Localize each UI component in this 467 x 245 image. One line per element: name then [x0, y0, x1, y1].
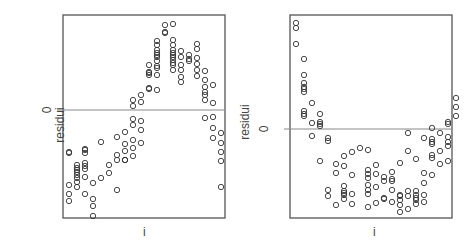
data-point [66, 182, 71, 187]
data-point [210, 82, 215, 87]
data-point [218, 130, 223, 135]
data-point [130, 97, 135, 102]
data-point [333, 170, 338, 175]
data-point [202, 68, 207, 73]
data-point [405, 206, 410, 211]
data-point [98, 175, 103, 180]
data-point [162, 22, 167, 27]
data-point [130, 116, 135, 121]
data-point [154, 72, 159, 77]
data-point [341, 163, 346, 168]
data-point [218, 184, 223, 189]
data-point [309, 120, 314, 125]
data-point [210, 135, 215, 140]
data-point [429, 125, 434, 130]
scatter-plot-left [0, 0, 233, 245]
data-point [341, 153, 346, 158]
data-point [453, 104, 458, 109]
data-point [357, 145, 362, 150]
data-point [397, 160, 402, 165]
data-point [218, 149, 223, 154]
data-point [349, 191, 354, 196]
y-tick-zero-right: 0 [257, 126, 271, 133]
data-point [106, 162, 111, 167]
data-point [301, 56, 306, 61]
data-point [194, 67, 199, 72]
data-point [381, 178, 386, 183]
data-point [349, 149, 354, 154]
data-point [66, 191, 71, 196]
data-point [90, 180, 95, 185]
data-point [325, 187, 330, 192]
data-point [210, 114, 215, 119]
data-point [421, 199, 426, 204]
data-point [301, 72, 306, 77]
data-point [421, 180, 426, 185]
data-point [194, 73, 199, 78]
data-point [130, 145, 135, 150]
data-point [170, 21, 175, 26]
data-point [194, 55, 199, 60]
data-point [90, 203, 95, 208]
data-point [309, 100, 314, 105]
data-point [365, 147, 370, 152]
data-point [130, 137, 135, 142]
data-point [389, 199, 394, 204]
data-point [122, 148, 127, 153]
data-point [202, 77, 207, 82]
data-point [178, 54, 183, 59]
data-point [122, 157, 127, 162]
data-point [114, 134, 119, 139]
data-point [138, 127, 143, 132]
data-point [130, 103, 135, 108]
data-point [98, 139, 103, 144]
data-point [325, 193, 330, 198]
data-point [82, 174, 87, 179]
data-point [122, 129, 127, 134]
data-point [437, 148, 442, 153]
data-point [82, 191, 87, 196]
data-point [373, 171, 378, 176]
data-point [333, 202, 338, 207]
data-point [293, 41, 298, 46]
data-point [365, 175, 370, 180]
data-point [317, 158, 322, 163]
data-point [421, 135, 426, 140]
data-point [218, 158, 223, 163]
data-point [309, 133, 314, 138]
data-point [421, 192, 426, 197]
data-point [445, 158, 450, 163]
data-point [138, 92, 143, 97]
data-point [397, 209, 402, 214]
data-point [373, 184, 378, 189]
data-point [405, 130, 410, 135]
data-point [154, 87, 159, 92]
data-point [317, 111, 322, 116]
y-axis-label-left: residui [53, 107, 67, 142]
x-axis-label-right: i [373, 225, 376, 239]
data-point [437, 161, 442, 166]
left-residual-plot: residui 0 i [0, 0, 233, 245]
data-point [202, 115, 207, 120]
data-point [429, 172, 434, 177]
data-point [194, 61, 199, 66]
data-point [218, 140, 223, 145]
data-point [130, 122, 135, 127]
x-axis-label-left: i [143, 225, 146, 239]
plot-frame [290, 15, 452, 218]
data-point [130, 153, 135, 158]
data-point [453, 95, 458, 100]
data-point [66, 198, 71, 203]
data-point [349, 201, 354, 206]
data-point [373, 200, 378, 205]
data-point [421, 170, 426, 175]
data-point [146, 62, 151, 67]
data-point [178, 48, 183, 53]
data-point [114, 187, 119, 192]
data-point [365, 204, 370, 209]
data-point [349, 172, 354, 177]
right-residual-plot: residui 0 i [233, 0, 466, 245]
data-point [389, 187, 394, 192]
data-point [210, 100, 215, 105]
data-point [210, 125, 215, 130]
